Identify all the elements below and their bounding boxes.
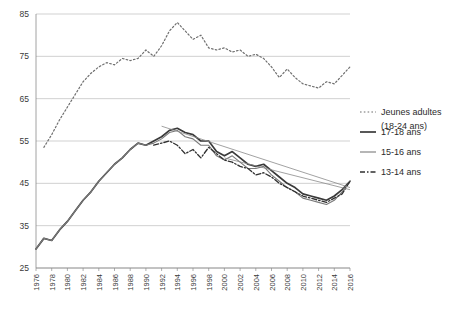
x-tick-label: 2010 xyxy=(299,274,308,291)
series-line-2 xyxy=(36,130,350,249)
x-tick-label: 1984 xyxy=(95,274,104,291)
y-tick-label: 55 xyxy=(20,136,30,146)
x-tick-label: 1988 xyxy=(126,274,135,291)
x-tick-label: 1992 xyxy=(158,274,167,291)
x-tick-label: 2006 xyxy=(268,274,277,291)
x-tick-label: 1994 xyxy=(173,274,182,291)
y-tick-label: 65 xyxy=(20,94,30,104)
x-tick-label: 2000 xyxy=(220,274,229,291)
x-tick-label: 2016 xyxy=(346,274,355,291)
x-tick-label: 1986 xyxy=(111,274,120,291)
y-tick-label: 75 xyxy=(20,51,30,61)
y-tick-label: 45 xyxy=(20,178,30,188)
legend-label-1: 17-18 ans xyxy=(381,127,422,137)
series-line-0 xyxy=(44,22,350,147)
x-tick-label: 1976 xyxy=(32,274,41,291)
y-tick-label: 35 xyxy=(20,221,30,231)
x-tick-label: 2002 xyxy=(236,274,245,291)
x-tick-label: 1978 xyxy=(48,274,57,291)
trend-13-14 xyxy=(224,158,350,190)
x-tick-label: 1980 xyxy=(63,274,72,291)
y-tick-label: 85 xyxy=(20,9,30,19)
series-line-3 xyxy=(154,141,350,202)
x-tick-label: 1990 xyxy=(142,274,151,291)
x-tick-label: 2004 xyxy=(252,274,261,291)
legend-label-3: 13-14 ans xyxy=(381,167,422,177)
series-line-1 xyxy=(36,128,350,249)
x-tick-label: 2008 xyxy=(283,274,292,291)
legend-label-0: Jeunes adultes xyxy=(381,107,442,117)
legend-label-2: 15-16 ans xyxy=(381,147,422,157)
x-tick-label: 2012 xyxy=(315,274,324,291)
trend-17-18 xyxy=(162,126,350,187)
x-tick-label: 1996 xyxy=(189,274,198,291)
chart-container: 2535455565758519761978198019821984198619… xyxy=(0,0,461,312)
x-tick-label: 1998 xyxy=(205,274,214,291)
y-tick-label: 25 xyxy=(20,263,30,273)
x-tick-label: 1982 xyxy=(79,274,88,291)
line-chart: 2535455565758519761978198019821984198619… xyxy=(0,0,461,312)
x-tick-label: 2014 xyxy=(330,274,339,291)
